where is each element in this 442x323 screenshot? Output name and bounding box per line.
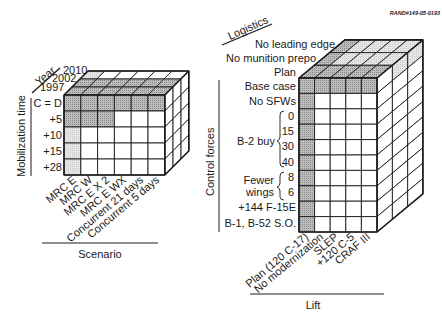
cube-front-cell — [64, 95, 81, 111]
control-forces-level: No SFWs — [249, 95, 297, 107]
mobilization-level: +28 — [43, 161, 62, 173]
cube-front-cell — [98, 111, 115, 127]
cube-front-cell — [299, 93, 315, 108]
cube-front-cell — [361, 170, 377, 185]
cube-front-cell — [361, 217, 377, 232]
cube-front-cell — [346, 124, 362, 139]
cube-front-cell — [346, 217, 362, 232]
cube-front-cell — [361, 109, 377, 124]
cube-front-cell — [330, 170, 346, 185]
figure-id: RAND#149-05-0193 — [390, 10, 440, 16]
control-forces-level: B-1, B-52 S.O. — [224, 217, 296, 229]
lift-axis-title: Lift — [306, 299, 321, 311]
cube-front-cell — [148, 127, 165, 143]
cube-front-cell — [361, 124, 377, 139]
cube-front-cell — [114, 159, 131, 175]
cube-front-cell — [148, 159, 165, 175]
cube-front-cell — [315, 186, 331, 201]
mobilization-level: +15 — [43, 145, 62, 157]
mobilization-level: +5 — [49, 113, 62, 125]
cube-front-cell — [148, 143, 165, 159]
diagram-canvas: RAND#149-05-0193 Year 2010 2002 1997 Mob… — [0, 0, 442, 323]
cube-front-cell — [64, 143, 81, 159]
cube-front-cell — [330, 201, 346, 216]
cube-front-cell — [299, 217, 315, 232]
cube-front-cell — [114, 127, 131, 143]
cube-front-cell — [131, 143, 148, 159]
cube-front-cell — [346, 201, 362, 216]
cube-front-cell — [346, 93, 362, 108]
cube-front-cell — [315, 78, 331, 93]
cube-front-cell — [330, 217, 346, 232]
cube-front-cell — [361, 201, 377, 216]
cube-front-cell — [315, 201, 331, 216]
cube-front-cell — [315, 109, 331, 124]
cube-front-cell — [131, 127, 148, 143]
cube-front-cell — [98, 159, 115, 175]
cube-front-cell — [299, 140, 315, 155]
cube-front-cell — [299, 201, 315, 216]
cube-front-cell — [114, 143, 131, 159]
cube-front-cell — [81, 95, 98, 111]
right-cube — [299, 40, 423, 232]
cube-front-cell — [299, 78, 315, 93]
cube-front-cell — [346, 78, 362, 93]
control-forces-level: 30 — [282, 140, 294, 152]
cube-front-cell — [315, 155, 331, 170]
control-forces-level: 8 — [288, 171, 294, 183]
logistics-level: Plan — [274, 66, 296, 78]
cube-front-cell — [315, 140, 331, 155]
cube-front-cell — [64, 127, 81, 143]
cube-front-cell — [330, 155, 346, 170]
cube-front-cell — [64, 111, 81, 127]
control-forces-level: 15 — [282, 125, 294, 137]
cube-front-cell — [81, 111, 98, 127]
mobilization-level: C = D — [34, 97, 62, 109]
control-forces-level: 0 — [288, 110, 294, 122]
cube-front-cell — [346, 186, 362, 201]
control-forces-level: 40 — [282, 156, 294, 168]
cube-front-cell — [299, 124, 315, 139]
cube-front-cell — [361, 155, 377, 170]
left-cube — [64, 71, 189, 175]
cube-front-cell — [148, 111, 165, 127]
cube-front-cell — [330, 124, 346, 139]
cube-front-cell — [330, 140, 346, 155]
cube-front-cell — [315, 170, 331, 185]
cube-front-cell — [98, 143, 115, 159]
cube-front-cell — [361, 93, 377, 108]
year-level-1997: 1997 — [40, 81, 64, 93]
cube-front-cell — [361, 78, 377, 93]
cube-front-cell — [81, 159, 98, 175]
cube-front-cell — [64, 159, 81, 175]
control-forces-level: +144 F-15E — [238, 201, 296, 213]
cube-front-cell — [131, 111, 148, 127]
b2-buy-group-label: B-2 buy — [237, 135, 275, 147]
cube-front-cell — [81, 127, 98, 143]
fewer-wings-brace — [277, 172, 284, 200]
cube-front-cell — [361, 140, 377, 155]
cube-front-cell — [148, 95, 165, 111]
cube-front-cell — [299, 155, 315, 170]
control-forces-level: 6 — [288, 186, 294, 198]
cube-front-cell — [346, 109, 362, 124]
cube-front-cell — [315, 124, 331, 139]
fewer-wings-group-label: wings — [245, 186, 275, 198]
cube-front-cell — [81, 143, 98, 159]
cube-front-cell — [346, 155, 362, 170]
cube-front-cell — [361, 186, 377, 201]
cube-front-cell — [299, 186, 315, 201]
cube-front-cell — [299, 170, 315, 185]
cube-front-cell — [315, 93, 331, 108]
cube-front-cell — [98, 95, 115, 111]
mobilization-axis-title: Mobilization time — [15, 95, 27, 177]
cube-front-cell — [114, 95, 131, 111]
control-forces-level: Base case — [245, 80, 296, 92]
cube-front-cell — [346, 140, 362, 155]
cube-front-cell — [330, 93, 346, 108]
cube-front-cell — [98, 127, 115, 143]
cube-front-cell — [330, 186, 346, 201]
cube-front-cell — [114, 111, 131, 127]
cube-front-cell — [330, 78, 346, 93]
mobilization-level: +10 — [43, 129, 62, 141]
